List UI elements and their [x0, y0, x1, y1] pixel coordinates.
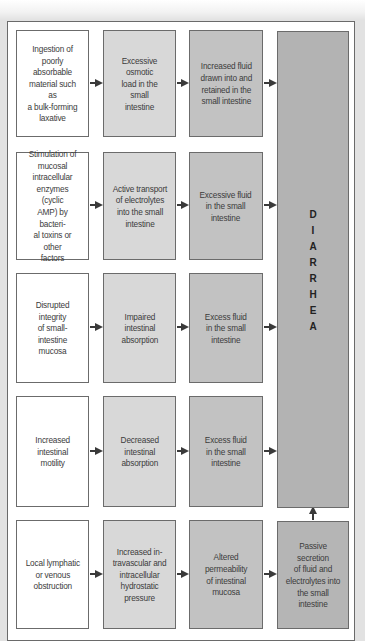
arrow-icon [264, 326, 275, 328]
cause-text-2: Stimulation ofmucosalintracellularenzyme… [25, 148, 80, 264]
effect-text-3: Excess fluidin the smallintestine [205, 311, 247, 346]
mechanism-box-4: Decreasedintestinalabsorption [103, 396, 176, 507]
letter: A [278, 319, 348, 335]
cause-box-3: Disrupted integrityof small-intestinemuc… [16, 273, 89, 383]
effect-box-1: Increased fluiddrawn into andretained in… [189, 30, 263, 137]
effect-box-4: Excess fluidin the smallintestine [189, 396, 263, 507]
diarrhea-label: D I A R R H E A [278, 207, 348, 335]
arrow-icon [177, 326, 187, 328]
effect-text-2: Excessive fluidin the smallintestine [200, 189, 252, 224]
letter: A [278, 239, 348, 255]
mechanism-box-2: Active transportof electrolytesinto the … [103, 152, 176, 260]
arrow-icon [90, 326, 101, 328]
cause-text-1: Ingestion ofpoorlyabsorbablematerial suc… [25, 43, 80, 124]
arrow-icon [90, 450, 101, 452]
arrow-icon [90, 204, 101, 206]
page-top-fade [0, 0, 365, 20]
arrow-icon [177, 450, 187, 452]
arrow-up-icon [312, 509, 314, 520]
mechanism-box-1: Excessive osmoticload in the smallintest… [103, 30, 176, 137]
arrow-icon [264, 450, 275, 452]
arrow-icon [177, 204, 187, 206]
cause-text-4: Increasedintestinalmotility [35, 434, 70, 469]
cause-box-2: Stimulation ofmucosalintracellularenzyme… [16, 152, 89, 260]
cause-box-5: Local lymphaticor venousobstruction [16, 520, 89, 629]
arrow-icon [177, 573, 187, 575]
arrow-icon [264, 204, 275, 206]
arrow-icon [264, 573, 275, 575]
mechanism-text-1: Excessive osmoticload in the smallintest… [112, 55, 167, 113]
letter: R [278, 255, 348, 271]
cause-text-3: Disrupted integrityof small-intestinemuc… [25, 299, 80, 357]
letter: I [278, 223, 348, 239]
letter: R [278, 271, 348, 287]
effect-text-4: Excess fluidin the smallintestine [205, 434, 247, 469]
arrow-icon [90, 573, 101, 575]
effect-box-2: Excessive fluidin the smallintestine [189, 152, 263, 260]
effect-box-5: Alteredpermeabilityof intestinalmucosa [189, 520, 263, 629]
secretion-box: Passive secretionof fluid andelectrolyte… [277, 521, 349, 629]
cause-text-5: Local lymphaticor venousobstruction [25, 557, 79, 592]
letter: D [278, 207, 348, 223]
arrow-icon [264, 82, 275, 84]
arrow-icon [177, 82, 187, 84]
arrow-icon [90, 82, 101, 84]
mechanism-box-5: Increased in-travascular andintracellula… [103, 520, 176, 629]
mechanism-text-5: Increased in-travascular andintracellula… [113, 546, 167, 604]
mechanism-text-4: Decreasedintestinalabsorption [120, 434, 158, 469]
letter: E [278, 303, 348, 319]
secretion-text: Passive secretionof fluid andelectrolyte… [286, 540, 341, 610]
mechanism-box-3: Impairedintestinalabsorption [103, 273, 176, 383]
effect-box-3: Excess fluidin the smallintestine [189, 273, 263, 383]
mechanism-text-2: Active transportof electrolytesinto the … [112, 183, 167, 229]
effect-text-5: Alteredpermeabilityof intestinalmucosa [205, 551, 247, 597]
diarrhea-outcome-box: D I A R R H E A [277, 31, 349, 508]
cause-box-4: Increasedintestinalmotility [16, 396, 89, 507]
cause-box-1: Ingestion ofpoorlyabsorbablematerial suc… [16, 30, 89, 137]
mechanism-text-3: Impairedintestinalabsorption [121, 311, 158, 346]
letter: H [278, 287, 348, 303]
effect-text-1: Increased fluiddrawn into andretained in… [200, 60, 252, 106]
